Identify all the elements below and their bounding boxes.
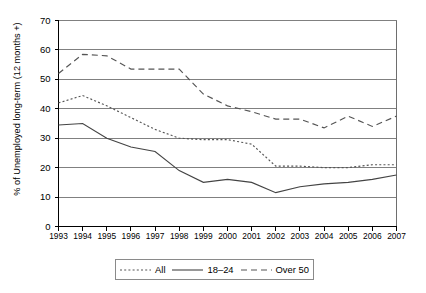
legend-label-18-24: 18–24 [207, 264, 233, 275]
series-line-over-50 [59, 54, 397, 128]
legend-swatch-over-50 [241, 266, 272, 274]
legend-item-all: All [120, 264, 165, 275]
legend-label-all: All [155, 264, 165, 275]
y-tick-label: 10 [25, 191, 51, 202]
chart-legend: All 18–24 Over 50 [115, 259, 314, 280]
legend-label-over-50: Over 50 [276, 264, 309, 275]
y-tick-label: 50 [25, 73, 51, 84]
y-tick-label: 40 [25, 103, 51, 114]
legend-item-over-50: Over 50 [241, 264, 309, 275]
y-tick-label: 30 [25, 132, 51, 143]
series-line-18-24 [59, 124, 397, 193]
y-tick-label: 60 [25, 44, 51, 55]
y-tick-label: 0 [25, 221, 51, 232]
y-tick-label: 70 [25, 15, 51, 26]
y-tick-label: 20 [25, 162, 51, 173]
legend-swatch-18-24 [172, 266, 203, 274]
line-chart: % of Unemployed long-term (12 months +) … [0, 0, 426, 293]
legend-item-18-24: 18–24 [172, 264, 233, 275]
x-tick-label: 2007 [382, 231, 412, 241]
legend-swatch-all [120, 266, 151, 274]
plot-area [0, 0, 426, 293]
